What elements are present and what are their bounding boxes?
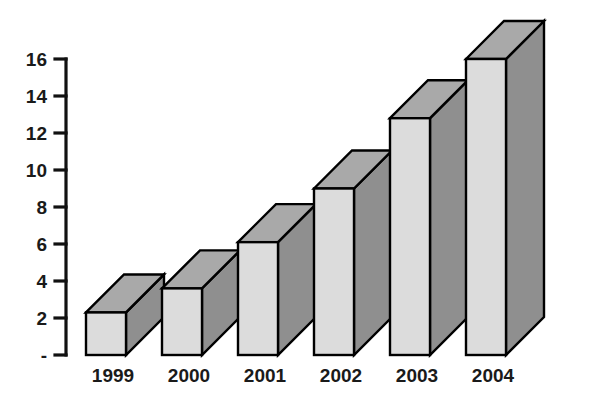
bar-front-face-2002 xyxy=(314,189,354,356)
value-axis: -246810121416 xyxy=(26,49,66,366)
x-tick-label-2003: 2003 xyxy=(396,365,438,386)
bar-front-face-2001 xyxy=(238,242,278,355)
y-tick-marks xyxy=(55,59,66,355)
bar-2000[interactable] xyxy=(162,250,240,355)
bar-1999[interactable] xyxy=(86,274,164,355)
x-tick-label-2000: 2000 xyxy=(168,365,210,386)
y-tick-labels: -246810121416 xyxy=(26,49,48,366)
bar-2001[interactable] xyxy=(238,204,316,355)
y-tick-label-6: 6 xyxy=(36,234,47,255)
y-tick-label-2: 2 xyxy=(36,308,47,329)
y-tick-label--: - xyxy=(41,345,47,366)
y-tick-label-16: 16 xyxy=(26,49,47,70)
bar-chart-figure: -246810121416 199920002001200220032004 xyxy=(0,0,601,401)
bar-2003[interactable] xyxy=(390,80,468,355)
bars-group xyxy=(86,21,544,355)
bar-front-face-2004 xyxy=(466,59,506,355)
y-tick-label-14: 14 xyxy=(26,86,48,107)
chart-canvas: -246810121416 199920002001200220032004 xyxy=(0,0,601,401)
bar-front-face-2003 xyxy=(390,118,430,355)
bar-side-face-2003 xyxy=(430,80,468,355)
bar-2004[interactable] xyxy=(466,21,544,355)
bar-2002[interactable] xyxy=(314,151,392,356)
bar-front-face-1999 xyxy=(86,312,126,355)
y-tick-label-10: 10 xyxy=(26,160,47,181)
x-tick-label-2002: 2002 xyxy=(320,365,362,386)
y-tick-label-8: 8 xyxy=(36,197,47,218)
y-tick-label-12: 12 xyxy=(26,123,47,144)
bar-front-face-2000 xyxy=(162,288,202,355)
x-tick-label-2004: 2004 xyxy=(472,365,515,386)
x-tick-labels: 199920002001200220032004 xyxy=(92,365,515,386)
x-tick-label-2001: 2001 xyxy=(244,365,287,386)
bar-side-face-2004 xyxy=(506,21,544,355)
x-tick-label-1999: 1999 xyxy=(92,365,134,386)
y-tick-label-4: 4 xyxy=(36,271,47,292)
